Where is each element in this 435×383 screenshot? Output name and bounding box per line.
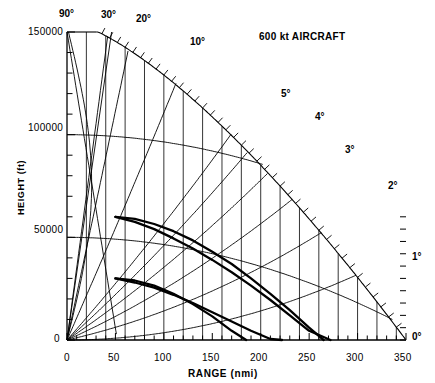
angle-label-1: 1°: [412, 251, 422, 262]
angle-label-0: 0°: [412, 331, 422, 342]
axis-lines: [67, 32, 406, 340]
y-tick-label-100000: 100000: [28, 122, 63, 133]
outer-boundary-arc: [67, 32, 406, 340]
outer-arc-ticks: [102, 28, 402, 327]
x-tick-label-50: 50: [108, 352, 120, 363]
angle-label-2: 2°: [388, 180, 398, 191]
angle-label-30: 30°: [101, 9, 116, 20]
y-tick-label-0: 0: [54, 333, 60, 344]
angle-label-5: 5°: [281, 88, 291, 99]
x-tick-label-200: 200: [250, 352, 268, 363]
x-tick-label-300: 300: [346, 352, 364, 363]
chart-canvas: [0, 0, 435, 383]
y-axis-title: HEIGHT (ft): [16, 160, 26, 215]
x-tick-label-250: 250: [298, 352, 316, 363]
angle-label-3: 3°: [345, 144, 355, 155]
angle-label-90: 90°: [59, 8, 74, 19]
x-tick-label-0: 0: [64, 352, 70, 363]
elevation-angle-radials: [67, 32, 356, 340]
angle-label-10: 10°: [190, 36, 205, 47]
angle-label-20: 20°: [136, 13, 151, 24]
x-axis-title: RANGE (nmi): [188, 368, 258, 379]
y-tick-label-150000: 150000: [28, 26, 63, 37]
chart-title: 600 kt AIRCRAFT: [259, 31, 345, 42]
chart-figure: HEIGHT (ft) 150000 100000 50000 0 0 50 1…: [0, 0, 435, 383]
y-tick-label-50000: 50000: [34, 224, 63, 235]
angle-label-4: 4°: [315, 111, 325, 122]
x-tick-label-100: 100: [154, 352, 172, 363]
y-axis-ticks: [67, 32, 406, 340]
x-tick-label-150: 150: [202, 352, 220, 363]
x-tick-label-350: 350: [394, 352, 412, 363]
